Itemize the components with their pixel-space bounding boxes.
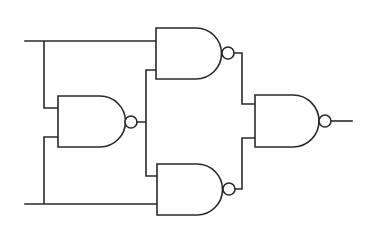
nand-gate-output xyxy=(255,95,331,147)
inverter-bubble xyxy=(223,183,235,195)
nand-gate-top xyxy=(156,28,234,79)
bottom-output-wire xyxy=(235,138,255,189)
nand-gate-middle-left xyxy=(58,96,137,147)
inverter-bubble xyxy=(125,116,137,128)
nand-xor-circuit xyxy=(0,0,376,239)
inverter-bubble xyxy=(319,115,331,127)
top-output-wire xyxy=(234,53,255,104)
nand-gate-bottom xyxy=(157,164,235,215)
inverter-bubble xyxy=(222,47,234,59)
middle-output-wire xyxy=(137,70,157,176)
